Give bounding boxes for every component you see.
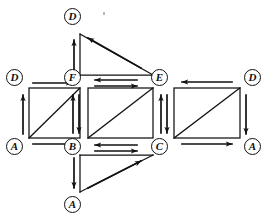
vertex-label-D-top: D bbox=[64, 8, 81, 25]
diagram-canvas: D D F E D A B C A A bbox=[0, 0, 268, 219]
edge-right-rect-diagonal bbox=[174, 88, 240, 138]
vertex-label-B: B bbox=[64, 138, 81, 155]
vertex-label-D-right: D bbox=[244, 69, 261, 86]
vertex-label-D-left: D bbox=[6, 69, 23, 86]
edge-middle-rect-diagonal bbox=[88, 88, 153, 138]
vertex-label-C: C bbox=[151, 138, 168, 155]
arrow-A-to-C bbox=[88, 161, 141, 188]
face-middle-rectangle bbox=[88, 88, 153, 138]
dust-speck bbox=[103, 12, 105, 15]
vertex-label-A-left: A bbox=[6, 138, 23, 155]
vertex-label-E: E bbox=[151, 69, 168, 86]
vertex-label-A-right: A bbox=[244, 138, 261, 155]
net-diagram-svg bbox=[0, 0, 268, 219]
vertex-label-A-bottom: A bbox=[64, 196, 81, 213]
face-right-rectangle bbox=[174, 88, 240, 138]
vertex-label-F: F bbox=[64, 69, 81, 86]
arrow-E-to-D bbox=[88, 38, 141, 68]
